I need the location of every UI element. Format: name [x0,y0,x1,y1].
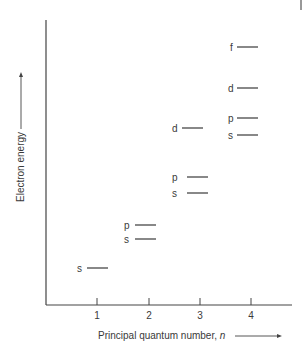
tick-label-1: 1 [94,310,100,321]
label-1s: s [77,263,82,274]
tick-label-4: 4 [248,310,254,321]
label-2s: s [124,234,129,245]
tick-label-2: 2 [146,310,152,321]
tick-label-3: 3 [197,310,203,321]
x-ticks [97,298,251,305]
y-axis-label: Electron energy [15,132,26,202]
energy-levels [87,47,258,268]
energy-level-chart: 1 2 3 4 Principal quantum number, n Elec… [0,0,303,357]
label-2p: p [124,220,130,231]
label-3s: s [172,188,177,199]
y-arrow-icon [19,72,23,77]
label-4s: s [228,130,233,141]
label-4f: f [230,42,233,53]
label-3p: p [172,172,178,183]
label-3d: d [172,123,178,134]
x-axis-label: Principal quantum number, n [98,330,226,341]
label-4p: p [228,113,234,124]
label-4d: d [228,83,234,94]
x-arrow-icon [277,334,282,338]
